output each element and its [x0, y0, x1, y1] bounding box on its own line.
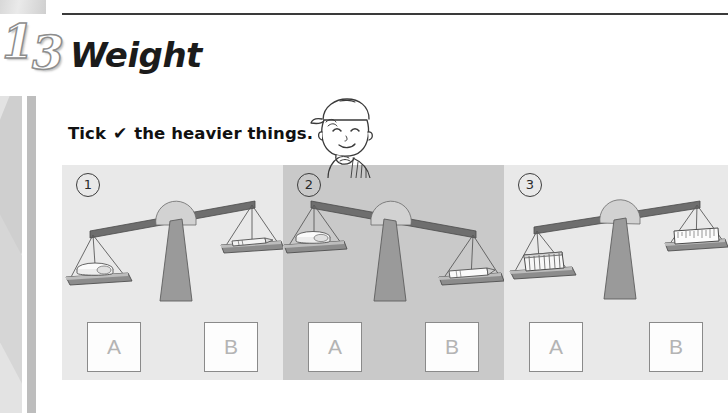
- answer-box-2-a[interactable]: A: [308, 322, 362, 372]
- ruler-object-3: [674, 228, 719, 244]
- answer-box-1-a[interactable]: A: [87, 322, 141, 372]
- instruction-rest: the heavier things.: [134, 124, 313, 143]
- page-title: Weight: [70, 38, 202, 72]
- crayon-box-object-3: [524, 252, 564, 271]
- instruction-verb: Tick: [68, 124, 106, 143]
- answer-row-1: A B: [62, 322, 283, 374]
- eraser-object-2: [296, 232, 330, 244]
- header-rule: [62, 13, 728, 15]
- tick-icon: ✔: [112, 123, 128, 143]
- edge-stripe-white-inner: [36, 96, 46, 413]
- chapter-number: 13: [2, 24, 62, 70]
- answer-box-3-a[interactable]: A: [529, 322, 583, 372]
- answer-row-2: A B: [283, 322, 504, 374]
- questions-strip: 1: [62, 165, 728, 380]
- chapter-digit-2: 3: [32, 30, 62, 76]
- question-number-3: 3: [518, 173, 542, 197]
- chapter-digit-1: 1: [2, 19, 32, 65]
- question-panel-1: 1: [62, 165, 283, 380]
- answer-row-3: A B: [504, 322, 728, 374]
- balance-scale-2: [283, 183, 504, 313]
- answer-box-1-b[interactable]: B: [204, 322, 258, 372]
- edge-stripe-gray: [27, 96, 36, 413]
- question-panel-3: 3: [504, 165, 728, 380]
- balance-scale-3: [504, 183, 728, 313]
- balance-scale-1: [62, 183, 283, 313]
- answer-box-3-b[interactable]: B: [649, 322, 703, 372]
- question-panel-2: 2: [283, 165, 504, 380]
- instruction-text: Tick ✔ the heavier things.: [68, 123, 313, 143]
- thinking-boy-illustration: [306, 96, 384, 178]
- answer-box-2-b[interactable]: B: [425, 322, 479, 372]
- edge-top-block: [0, 0, 46, 14]
- question-number-1: 1: [76, 173, 100, 197]
- eraser-object-1: [77, 263, 113, 275]
